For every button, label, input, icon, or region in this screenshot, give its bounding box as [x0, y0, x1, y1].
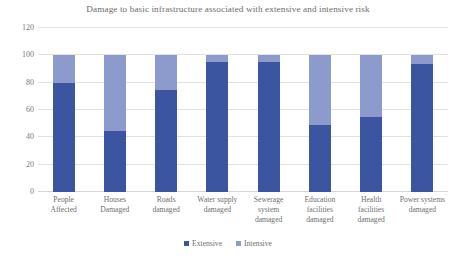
gridline-0 [38, 191, 448, 192]
x-axis-category-label: People Affected [40, 195, 87, 215]
bar-segment-extensive[interactable] [309, 125, 331, 192]
plot-area [38, 28, 448, 192]
y-axis-tick-label: 40 [0, 133, 34, 141]
gridline-100 [38, 54, 448, 55]
bar-segment-extensive[interactable] [53, 83, 75, 192]
y-axis-tick-label: 80 [0, 79, 34, 87]
bar-stack[interactable] [155, 28, 177, 192]
bar-segment-intensive[interactable] [206, 55, 228, 62]
bar-stack[interactable] [411, 28, 433, 192]
bar-segment-extensive[interactable] [155, 90, 177, 193]
x-axis-category-label: Water supply damaged [194, 195, 241, 215]
chart-legend: ExtensiveIntensive [0, 240, 456, 248]
legend-label: Extensive [192, 240, 222, 248]
bar-stack[interactable] [53, 28, 75, 192]
bar-segment-intensive[interactable] [258, 55, 280, 62]
bar-segment-intensive[interactable] [155, 55, 177, 89]
x-axis-category-label: Health facilities damaged [348, 195, 395, 225]
gridline-80 [38, 82, 448, 83]
x-axis-category-label: Houses Damaged [91, 195, 138, 215]
bar-segment-extensive[interactable] [411, 64, 433, 192]
bar-segment-intensive[interactable] [360, 55, 382, 117]
gridline-40 [38, 136, 448, 137]
y-axis-tick-label: 120 [0, 24, 34, 32]
legend-item[interactable]: Extensive [184, 240, 222, 248]
bar-segment-extensive[interactable] [258, 62, 280, 192]
x-axis-category-label: Power systems damaged [399, 195, 446, 215]
bar-segment-intensive[interactable] [309, 55, 331, 125]
x-axis-category-label: Sewerage system damaged [245, 195, 292, 225]
x-axis-category-label: Education facilities damaged [296, 195, 343, 225]
legend-swatch-icon [236, 241, 241, 246]
x-axis-category-label: Roads damaged [143, 195, 190, 215]
y-axis-tick-label: 0 [0, 188, 34, 196]
chart-container: Damage to basic infrastructure associate… [0, 0, 456, 261]
gridline-120 [38, 27, 448, 28]
bar-stack[interactable] [104, 28, 126, 192]
y-axis-tick-label: 20 [0, 161, 34, 169]
legend-swatch-icon [184, 241, 189, 246]
bar-segment-extensive[interactable] [104, 131, 126, 193]
gridline-60 [38, 109, 448, 110]
x-axis: People AffectedHouses DamagedRoads damag… [38, 195, 448, 235]
bar-stack[interactable] [309, 28, 331, 192]
bar-segment-extensive[interactable] [360, 117, 382, 192]
legend-item[interactable]: Intensive [236, 240, 272, 248]
bar-segment-intensive[interactable] [104, 55, 126, 130]
chart-title: Damage to basic infrastructure associate… [0, 4, 456, 14]
gridline-20 [38, 164, 448, 165]
y-axis-tick-label: 60 [0, 106, 34, 114]
bar-segment-intensive[interactable] [53, 55, 75, 82]
y-axis-tick-label: 100 [0, 51, 34, 59]
y-axis: 020406080100120 [0, 28, 34, 192]
legend-label: Intensive [244, 240, 272, 248]
bar-stack[interactable] [206, 28, 228, 192]
bar-segment-intensive[interactable] [411, 55, 433, 63]
bar-segment-extensive[interactable] [206, 62, 228, 192]
bar-stack[interactable] [258, 28, 280, 192]
bar-stack[interactable] [360, 28, 382, 192]
